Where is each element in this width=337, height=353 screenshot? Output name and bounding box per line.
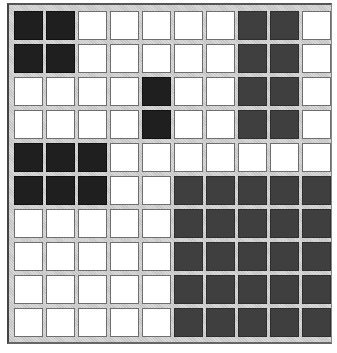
- grid-cell-r3-c3[interactable]: [110, 110, 139, 139]
- grid-cell-r3-c6[interactable]: [206, 110, 235, 139]
- grid-cell-r2-c5[interactable]: [174, 77, 203, 106]
- grid-cell-r3-c8[interactable]: [270, 110, 299, 139]
- grid-cell-r4-c6[interactable]: [206, 143, 235, 172]
- grid-cell-r7-c8[interactable]: [270, 242, 299, 271]
- grid-cell-r0-c3[interactable]: [110, 11, 139, 40]
- grid-cell-r7-c3[interactable]: [110, 242, 139, 271]
- grid-cell-r8-c5[interactable]: [174, 275, 203, 304]
- grid-cell-r1-c8[interactable]: [270, 44, 299, 73]
- grid-cell-r7-c2[interactable]: [78, 242, 107, 271]
- grid-cell-r0-c6[interactable]: [206, 11, 235, 40]
- grid-cell-r1-c9[interactable]: [302, 44, 331, 73]
- grid-cell-r4-c2[interactable]: [78, 143, 107, 172]
- grid-cell-r8-c0[interactable]: [14, 275, 43, 304]
- grid-cell-r7-c9[interactable]: [302, 242, 331, 271]
- grid-cell-r0-c5[interactable]: [174, 11, 203, 40]
- grid-cell-r2-c8[interactable]: [270, 77, 299, 106]
- grid-cell-r0-c0[interactable]: [14, 11, 43, 40]
- grid-cell-r6-c0[interactable]: [14, 209, 43, 238]
- grid-cell-r5-c3[interactable]: [110, 176, 139, 205]
- grid-cell-r8-c9[interactable]: [302, 275, 331, 304]
- grid-cell-r5-c1[interactable]: [46, 176, 75, 205]
- grid-cell-r6-c8[interactable]: [270, 209, 299, 238]
- grid-cell-r0-c9[interactable]: [302, 11, 331, 40]
- grid-cell-r9-c5[interactable]: [174, 308, 203, 337]
- grid-cell-r8-c4[interactable]: [142, 275, 171, 304]
- grid-cell-r2-c1[interactable]: [46, 77, 75, 106]
- grid-cell-r6-c3[interactable]: [110, 209, 139, 238]
- grid-cell-r2-c7[interactable]: [238, 77, 267, 106]
- grid-cell-r5-c8[interactable]: [270, 176, 299, 205]
- grid-cell-r4-c1[interactable]: [46, 143, 75, 172]
- grid-cell-r2-c3[interactable]: [110, 77, 139, 106]
- grid-cell-r1-c5[interactable]: [174, 44, 203, 73]
- grid-cell-r3-c4[interactable]: [142, 110, 171, 139]
- grid-cell-r5-c2[interactable]: [78, 176, 107, 205]
- grid-cell-r2-c4[interactable]: [142, 77, 171, 106]
- grid-cell-r8-c3[interactable]: [110, 275, 139, 304]
- grid-cell-r0-c4[interactable]: [142, 11, 171, 40]
- grid-cell-r3-c2[interactable]: [78, 110, 107, 139]
- grid-cell-r5-c4[interactable]: [142, 176, 171, 205]
- grid-cell-r0-c7[interactable]: [238, 11, 267, 40]
- grid-cell-r1-c0[interactable]: [14, 44, 43, 73]
- grid-cell-r6-c5[interactable]: [174, 209, 203, 238]
- grid-cell-r8-c7[interactable]: [238, 275, 267, 304]
- grid-cell-r7-c1[interactable]: [46, 242, 75, 271]
- grid-cell-r0-c1[interactable]: [46, 11, 75, 40]
- grid-cell-r3-c7[interactable]: [238, 110, 267, 139]
- grid-cell-r4-c4[interactable]: [142, 143, 171, 172]
- grid-cell-r2-c6[interactable]: [206, 77, 235, 106]
- grid-cell-r6-c6[interactable]: [206, 209, 235, 238]
- grid-cell-r8-c1[interactable]: [46, 275, 75, 304]
- grid-cell-r1-c3[interactable]: [110, 44, 139, 73]
- grid-cell-r6-c4[interactable]: [142, 209, 171, 238]
- grid-cell-r9-c1[interactable]: [46, 308, 75, 337]
- grid-cell-r5-c6[interactable]: [206, 176, 235, 205]
- grid-cell-r7-c6[interactable]: [206, 242, 235, 271]
- grid-cell-r4-c8[interactable]: [270, 143, 299, 172]
- grid-cell-r1-c4[interactable]: [142, 44, 171, 73]
- grid-cell-r7-c4[interactable]: [142, 242, 171, 271]
- grid-cell-r5-c0[interactable]: [14, 176, 43, 205]
- grid-cell-r4-c5[interactable]: [174, 143, 203, 172]
- grid-cell-r7-c5[interactable]: [174, 242, 203, 271]
- grid-cell-r9-c4[interactable]: [142, 308, 171, 337]
- grid-cell-r6-c7[interactable]: [238, 209, 267, 238]
- grid-cell-r5-c9[interactable]: [302, 176, 331, 205]
- grid-cell-r7-c0[interactable]: [14, 242, 43, 271]
- grid-cell-r3-c0[interactable]: [14, 110, 43, 139]
- grid-cell-r1-c1[interactable]: [46, 44, 75, 73]
- grid-cell-r8-c8[interactable]: [270, 275, 299, 304]
- grid-cell-r5-c7[interactable]: [238, 176, 267, 205]
- grid-cell-r4-c0[interactable]: [14, 143, 43, 172]
- grid-cell-r9-c7[interactable]: [238, 308, 267, 337]
- grid-cell-r9-c3[interactable]: [110, 308, 139, 337]
- grid-cell-r1-c7[interactable]: [238, 44, 267, 73]
- grid-cell-r4-c3[interactable]: [110, 143, 139, 172]
- grid-cell-r2-c0[interactable]: [14, 77, 43, 106]
- grid-cell-r4-c7[interactable]: [238, 143, 267, 172]
- grid-cell-r7-c7[interactable]: [238, 242, 267, 271]
- grid-cell-r9-c9[interactable]: [302, 308, 331, 337]
- grid-cell-r4-c9[interactable]: [302, 143, 331, 172]
- grid-cell-r1-c6[interactable]: [206, 44, 235, 73]
- grid-cell-r6-c1[interactable]: [46, 209, 75, 238]
- grid-cell-r3-c1[interactable]: [46, 110, 75, 139]
- grid-cell-r9-c0[interactable]: [14, 308, 43, 337]
- grid-cell-r2-c9[interactable]: [302, 77, 331, 106]
- grid-cell-r5-c5[interactable]: [174, 176, 203, 205]
- grid-cell-r3-c9[interactable]: [302, 110, 331, 139]
- grid-cell-r9-c2[interactable]: [78, 308, 107, 337]
- grid-cell-r6-c9[interactable]: [302, 209, 331, 238]
- grid-cell-r0-c8[interactable]: [270, 11, 299, 40]
- grid-cell-r8-c2[interactable]: [78, 275, 107, 304]
- grid-cell-r8-c6[interactable]: [206, 275, 235, 304]
- grid-cell-r1-c2[interactable]: [78, 44, 107, 73]
- grid-cell-r6-c2[interactable]: [78, 209, 107, 238]
- grid-cell-r3-c5[interactable]: [174, 110, 203, 139]
- grid-cell-r9-c6[interactable]: [206, 308, 235, 337]
- grid-cell-r9-c8[interactable]: [270, 308, 299, 337]
- grid-cell-r2-c2[interactable]: [78, 77, 107, 106]
- grid-cell-r0-c2[interactable]: [78, 11, 107, 40]
